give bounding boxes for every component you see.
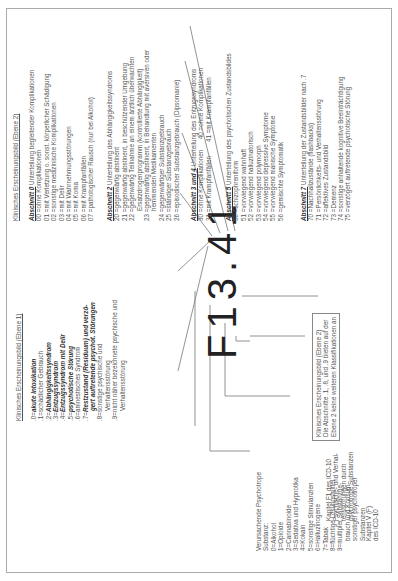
abschnitt-heading: Unterteilung des Entzugssyndroms bbox=[190, 69, 197, 167]
ebene1-item: .8=sonstige psychische und bbox=[96, 300, 103, 421]
chapter-v-label: Kapitel V (F) des ICD-10 bbox=[365, 506, 380, 541]
abschnitt-5: Abschnitt 5 Unterteilung des psychotisch… bbox=[225, 53, 284, 221]
code-item: 30 =ohne Komplikationen 40 =ohne Komplik… bbox=[197, 68, 204, 221]
code-item: 74 =sonstige anhaltende kognitive Beeint… bbox=[337, 75, 344, 221]
code-item: 50 =schizophreniform bbox=[232, 53, 239, 221]
substance-item: 2=Cannabinoide bbox=[285, 472, 292, 551]
substance-item: 3=Sedativa und Hypnotika bbox=[292, 472, 299, 551]
ebene1-item: .6=amnestisches Syndrom bbox=[74, 300, 81, 421]
ebene1-item: Verhaltensstörung bbox=[104, 300, 111, 421]
abschnitt-heading: Unterteilung begleitender Komplikationen bbox=[28, 70, 35, 185]
code-item: 04 =mit Wahrnehmungsstörungen bbox=[65, 70, 72, 221]
abschnitt-heading: Unterteilung der Zustandsbilder nach .7 bbox=[300, 75, 307, 185]
ebene1-title: Klinisches Erscheinungsbild (Ebene 1) bbox=[15, 300, 22, 421]
code-item: 07 =pathologischer Rausch (nur bei Alkoh… bbox=[87, 70, 94, 221]
code-item: 02 =sonstige medizinische Komplikationen bbox=[50, 70, 57, 221]
code-item: 23 =gegenwärtig abstinent, in Behandlung… bbox=[143, 50, 150, 221]
rotated-page: F13.41 Verursachende Psychotrope Substan… bbox=[0, 0, 398, 581]
chapter-f1-line: Kapitel F1 des ICD-10 bbox=[325, 452, 332, 521]
code-item: 70 =Nachhallzustände (flashbacks) bbox=[307, 75, 314, 221]
abschnitt-label: Abschnitt 3 und 4 bbox=[190, 168, 197, 221]
code-item: 54 =vorwiegend depressive Symptome bbox=[262, 53, 269, 221]
ebene2-title: Klinisches Erscheinungsbild (Ebene 2) bbox=[12, 114, 19, 221]
abschnitt-label: Abschnitt 7 bbox=[300, 187, 307, 221]
ebene1-item: .3=Entzugssyndrom bbox=[52, 300, 59, 421]
code-item: 01 =mit Verletzung o. sonst. körperliche… bbox=[43, 70, 50, 221]
code-item: 73 =Demenz bbox=[330, 75, 337, 221]
code-item: 00 =ohne Komplikationen bbox=[35, 70, 42, 221]
chapter-f1-label: Kapitel F1 des ICD-10 Psychische- und Ve… bbox=[325, 452, 355, 521]
chapter-f1-line: Psychische- und Verhal- bbox=[332, 452, 339, 521]
code-item: 21 =gegenwärtig abstinent, in beschützen… bbox=[121, 50, 128, 221]
ebene1-item: .7=Restzustand (Residuum) und verzö- bbox=[82, 300, 89, 421]
ebene1-list: Klinisches Erscheinungsbild (Ebene 1) .0… bbox=[15, 300, 126, 421]
code-item: 53 =vorwiegend polymorph bbox=[255, 53, 262, 221]
code-item: 51 =vorwiegend wahnhaft bbox=[240, 53, 247, 221]
code-item: 56 =gemischte Symptomatik bbox=[277, 53, 284, 221]
ebene2-note-box: Klinisches Erscheinungsbild (Ebene 2) Di… bbox=[312, 313, 340, 441]
document-frame: F13.41 Verursachende Psychotrope Substan… bbox=[0, 0, 398, 581]
icd-code: F13.41 bbox=[200, 198, 245, 359]
substance-item: Substanz: bbox=[262, 472, 269, 551]
abschnitt-2: Abschnitt 2 Unterteilung des Abhängigkei… bbox=[106, 50, 180, 221]
substance-item: 6=Halluzinogene bbox=[314, 472, 321, 551]
abschnitt-7: Abschnitt 7 Unterteilung der Zustandsbil… bbox=[300, 75, 352, 221]
code-item: 75 =verzögert auftretende psychotische S… bbox=[344, 75, 351, 221]
note-line: Die Abschnitte .1, .8, und .9 bieten auf… bbox=[322, 317, 329, 437]
code-item: 20 =gegenwärtig abstinent bbox=[113, 50, 120, 221]
code-item: 26 =episodischer Substanzgebrauch (Dipso… bbox=[173, 50, 180, 221]
code-item: 52 =vorwiegend halluzinatorisch bbox=[247, 53, 254, 221]
ebene1-item: .9=nicht näher bezeichnete psychische un… bbox=[111, 300, 118, 421]
chapter-f1-line: psychotrope Substanzen bbox=[347, 452, 354, 521]
note-line: Klinisches Erscheinungsbild (Ebene 2) bbox=[315, 317, 322, 437]
code-item: 55 =vorwiegend manische Symptome bbox=[269, 53, 276, 221]
abschnitt-heading: Unterteilung des Abhängigkeitssyndroms bbox=[106, 71, 113, 185]
note-line: Ebene 2 keine weiteren Klassifikationen … bbox=[330, 317, 337, 437]
abschnitt-label: Abschnitt 2 bbox=[106, 187, 113, 221]
ebene1-item: .2=Abhängigkeitssyndrom bbox=[45, 300, 52, 421]
code-item: hemmenden Medikamenten bbox=[150, 50, 157, 221]
code-item: 05 =mit Koma bbox=[72, 70, 79, 221]
ebene1-item: gert auftretende psychot. Störungen bbox=[89, 300, 96, 421]
abschnitt-label: Abschnitt 5 bbox=[225, 187, 232, 221]
code-item: 71 =Persönlichkeits- und Verhaltensstöru… bbox=[315, 75, 322, 221]
ebene1-item: .4=Entzugssyndrom mit Delir bbox=[59, 300, 66, 421]
substance-title: Verursachende Psychotrope bbox=[255, 472, 262, 551]
ebene1-item: .1=schädlicher Gebrauch bbox=[37, 300, 44, 421]
chapter-f1-line: tensstörungen durch bbox=[340, 452, 347, 521]
substance-item: 4=Kokain bbox=[299, 472, 306, 551]
abschnitt-0: Abschnitt 0 Unterteilung begleitender Ko… bbox=[28, 70, 95, 221]
ebene1-item: Verhaltensstörung bbox=[119, 300, 126, 421]
code-item: 06 =mit Krampfanfällen bbox=[80, 70, 87, 221]
code-item: Ersatzdrogenprogramm (kontrollierte Abhä… bbox=[136, 50, 143, 221]
ebene2-title-text: Klinisches Erscheinungsbild (Ebene 2) bbox=[12, 114, 19, 221]
substance-item: 5=sonstige Stimulanzien bbox=[307, 472, 314, 551]
abschnitt-heading: Unterteilung des psychotischen Zustandsb… bbox=[225, 53, 232, 185]
abschnitt-3-4: Abschnitt 3 und 4 Unterteilung des Entzu… bbox=[190, 68, 212, 221]
code-item: 72 =affektives Zustandsbild bbox=[322, 75, 329, 221]
abschnitt-label: Abschnitt 0 bbox=[28, 187, 35, 221]
code-item: 25 =ständiger Substanzgebrauch bbox=[165, 50, 172, 221]
code-item: 03 =mit Delir bbox=[58, 70, 65, 221]
code-item: 24 =gegenwärtiger Substanzgebrauch bbox=[158, 50, 165, 221]
chapter-v-line: Kapitel V (F) bbox=[365, 506, 372, 541]
ebene1-item: .0=akute Intoxikation bbox=[30, 300, 37, 421]
ebene1-item: .5=psychotische Störung bbox=[67, 300, 74, 421]
chapter-v-line: des ICD-10 bbox=[372, 506, 379, 541]
code-item: 31 =mit Krampfanfällen 41 =mit Krampfanf… bbox=[205, 68, 212, 221]
substance-item: 0=Alkohol bbox=[270, 472, 277, 551]
substance-item: 1=Opioide bbox=[277, 472, 284, 551]
code-item: 22 =gegenwärtig Teilnahme an einem ärztl… bbox=[128, 50, 135, 221]
